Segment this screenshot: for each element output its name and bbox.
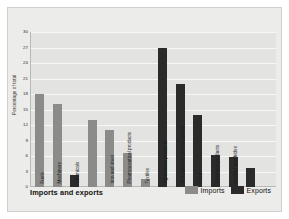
bar-slot: Fuels <box>35 32 53 187</box>
category-label: Chemical products <box>217 145 222 184</box>
chart-panel: Percentage of total 302724211815129630 F… <box>7 7 282 212</box>
category-label: Fuels <box>41 173 46 184</box>
bar-slot <box>246 32 264 187</box>
category-label: Food <box>199 173 204 184</box>
bar-slot: Chemicals <box>70 32 88 187</box>
category-label: Agricultural products <box>164 141 169 184</box>
category-label: Textiles <box>146 168 151 184</box>
category-label: Machinery <box>59 162 64 184</box>
chart-title: Imports and exports <box>30 188 103 197</box>
bar-imports <box>88 120 97 187</box>
category-label: Leather and hides <box>234 146 239 184</box>
bar-slot: Chemical products <box>211 32 229 187</box>
category-label: Chemicals <box>76 162 81 184</box>
y-axis-tick-label: 3 <box>26 169 28 173</box>
y-axis-tick-label: 9 <box>26 138 28 142</box>
legend-swatch-exports <box>231 186 244 194</box>
legend-item-imports: Imports <box>185 186 225 194</box>
legend-item-exports: Exports <box>231 186 271 194</box>
bar-slot: Iron and non-ferrous metals <box>176 32 194 187</box>
chart-legend: Imports Exports <box>185 186 271 194</box>
y-axis-tick-label: 27 <box>23 45 28 49</box>
bar-slot: Agricultural products <box>158 32 176 187</box>
legend-swatch-imports <box>185 186 198 194</box>
y-axis-tick-label: 24 <box>23 61 28 65</box>
bar-slot: Iron and steel <box>105 32 123 187</box>
bar-slot: Leather and hides <box>229 32 247 187</box>
y-axis-tick-label: 15 <box>23 107 28 111</box>
plot-background: 302724211815129630 FuelsMachineryChemica… <box>30 32 276 187</box>
bar-group: FuelsMachineryChemicalsIron and steelPha… <box>31 32 276 187</box>
bar-slot: Food <box>193 32 211 187</box>
plot-area: 302724211815129630 FuelsMachineryChemica… <box>30 32 276 187</box>
category-label: Pharmaceutical products <box>129 132 134 184</box>
legend-label-imports: Imports <box>201 187 225 194</box>
category-label: Iron and steel <box>111 155 116 184</box>
bar-slot: Machinery <box>53 32 71 187</box>
y-axis-tick-label: 30 <box>23 30 28 34</box>
y-axis-tick-label: 18 <box>23 92 28 96</box>
y-axis-tick-label: 12 <box>23 123 28 127</box>
y-axis-tick-label: 21 <box>23 76 28 80</box>
bar-slot <box>88 32 106 187</box>
y-axis-title: Percentage of total <box>12 75 17 115</box>
y-axis-tick-label: 6 <box>26 154 28 158</box>
bar-slot: Textiles <box>141 32 159 187</box>
legend-label-exports: Exports <box>247 187 271 194</box>
bar-slot: Pharmaceutical products <box>123 32 141 187</box>
y-axis-tick-label: 0 <box>26 185 28 189</box>
chart-footer: Imports and exports Imports Exports <box>30 185 271 203</box>
category-label: Iron and non-ferrous metals <box>182 126 187 184</box>
